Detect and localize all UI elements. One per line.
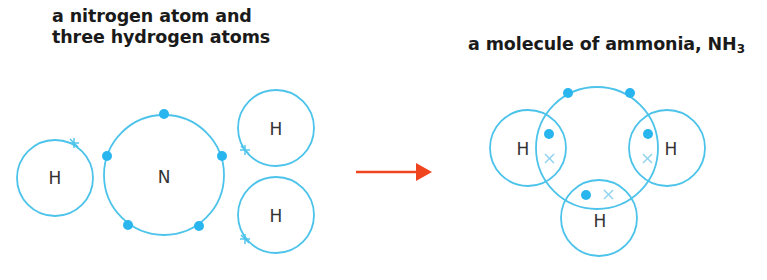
hydrogen-atom-left: H bbox=[17, 138, 93, 216]
nitrogen-electron-dot-icon bbox=[102, 151, 112, 161]
shared-electron-dot-icon bbox=[544, 129, 554, 139]
nitrogen-electron-dot-icon bbox=[194, 221, 204, 231]
nitrogen-atom: N bbox=[102, 109, 227, 235]
hydrogen-atom-top-right: H bbox=[238, 90, 314, 166]
lone-pair-electron-dot-icon bbox=[563, 88, 573, 98]
reactants-group: H N H bbox=[17, 90, 314, 253]
atom-symbol: H bbox=[665, 139, 678, 159]
atom-symbol: H bbox=[594, 211, 607, 231]
reaction-arrow-icon bbox=[356, 163, 432, 181]
atom-symbol: H bbox=[270, 119, 283, 139]
atom-symbol: H bbox=[270, 206, 283, 226]
ammonia-molecule: H H H bbox=[490, 87, 705, 256]
nitrogen-electron-dot-icon bbox=[159, 109, 169, 119]
nitrogen-electron-dot-icon bbox=[123, 220, 133, 230]
atom-symbol: H bbox=[517, 139, 530, 159]
shared-electron-cross-icon bbox=[643, 154, 652, 163]
nitrogen-electron-dot-icon bbox=[217, 151, 227, 161]
hydrogen-electron-cross-icon bbox=[69, 138, 79, 148]
atom-symbol: H bbox=[49, 168, 62, 188]
lone-pair-electron-dot-icon bbox=[625, 88, 635, 98]
atom-symbol: N bbox=[158, 167, 171, 187]
hydrogen-atom-bottom-right: H bbox=[238, 177, 314, 253]
shared-electron-cross-icon bbox=[604, 190, 613, 199]
hydrogen-electron-cross-icon bbox=[240, 145, 250, 155]
shared-electron-cross-icon bbox=[545, 154, 554, 163]
hydrogen-electron-cross-icon bbox=[240, 234, 250, 244]
shared-electron-dot-icon bbox=[643, 129, 653, 139]
nitrogen-shell bbox=[536, 87, 658, 209]
shared-electron-dot-icon bbox=[581, 190, 591, 200]
dot-cross-diagram: H N H bbox=[0, 0, 767, 280]
